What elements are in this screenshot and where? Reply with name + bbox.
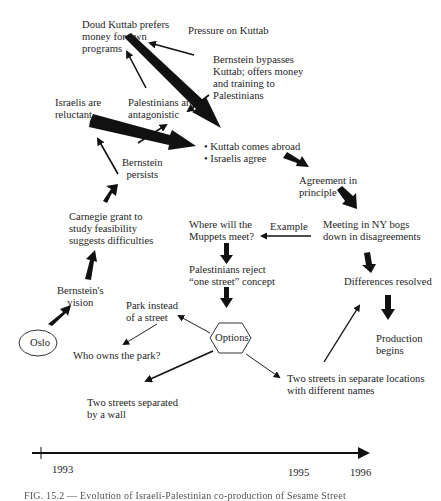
fat-arrow-reject-to-options	[220, 287, 233, 308]
node-where-muppets-meet: Where will the Muppets meet?	[189, 219, 254, 243]
node-israelis-reluctant: Israelis are reluctant	[55, 97, 101, 121]
fat-arrow-resolved-to-production	[381, 295, 395, 320]
node-park-instead: Park instead of a street	[126, 300, 178, 324]
timeline-year-1995: 1995	[288, 467, 309, 479]
node-doud-kuttab: Doud Kuttab prefers money for own progra…	[82, 19, 169, 55]
edge-label-example: Example	[270, 221, 308, 233]
node-who-owns-park: Who owns the park?	[73, 350, 160, 362]
node-palestinians-antagonistic: Palestinians are antagonistic	[128, 97, 194, 121]
node-two-streets-wall: Two streets separated by a wall	[87, 397, 178, 421]
node-carnegie-grant: Carnegie grant to study feasibility sugg…	[69, 211, 153, 247]
arrow-persists-to-reluctant	[98, 139, 118, 174]
arrow-park-to-owns	[124, 324, 157, 344]
node-meeting-in-ny: Meeting in NY bogs down in disagreements	[323, 219, 421, 243]
figure-caption: FIG. 15.2 — Evolution of Israeli-Palesti…	[24, 490, 346, 501]
arrow-options-to-park	[179, 316, 210, 333]
node-production-begins: Production begins	[376, 333, 423, 357]
node-kuttab-abroad: • Kuttab comes abroad • Israelis agree	[204, 141, 300, 165]
node-two-streets-separate: Two streets in separate locations with d…	[287, 373, 425, 397]
timeline-year-1993: 1993	[52, 464, 73, 476]
node-bernstein-bypasses: Bernstein bypasses Kuttab; offers money …	[213, 54, 303, 102]
fat-arrow-carnegie-to-persists	[103, 184, 118, 203]
node-oslo: Oslo	[30, 337, 50, 349]
timeline-year-1996: 1996	[350, 467, 371, 479]
node-bernsteins-vision: Bernstein's vision	[57, 285, 104, 309]
arrow-separate-to-resolved	[324, 306, 359, 362]
fat-arrow-muppets-to-reject	[220, 243, 233, 264]
node-options: Options	[215, 332, 249, 344]
node-bernstein-persists: Bernstein persists	[122, 157, 163, 181]
node-differences-resolved: Differences resolved	[344, 276, 432, 288]
arrow-options-to-separate	[246, 354, 279, 377]
node-pressure-on-kuttab: Pressure on Kuttab	[188, 25, 269, 37]
node-palestinians-reject: Palestinians reject “one street” concept	[189, 264, 275, 288]
fat-arrow-meeting-to-resolved	[362, 252, 376, 273]
timeline-axis	[32, 447, 370, 459]
arrow-antagonistic-to-doud	[127, 52, 146, 88]
fat-arrow-vision-to-carnegie	[85, 250, 97, 280]
node-agreement-in-principle: Agreement in principle	[299, 175, 357, 199]
